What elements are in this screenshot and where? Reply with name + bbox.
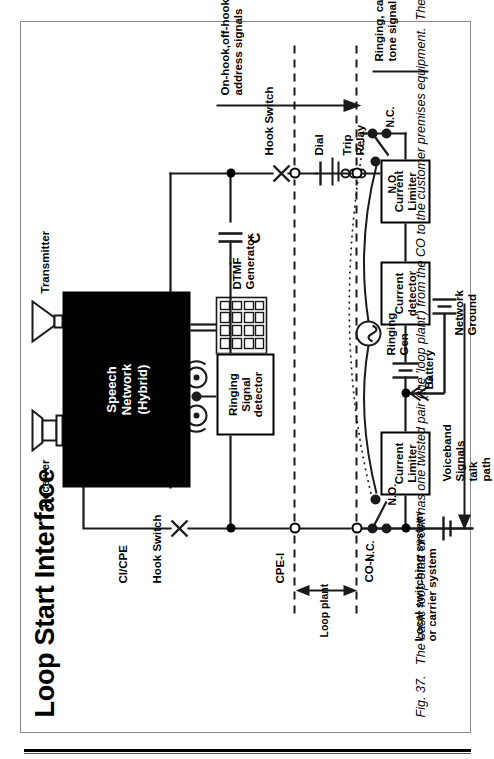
hook-switch-top-label: Hook Switch bbox=[150, 514, 163, 583]
hook-switch-bottom-label: Hook Switch bbox=[262, 86, 275, 155]
figure-page: Loop Start Interface bbox=[0, 0, 494, 759]
ringing-signal-detector-block: Ringing Signal detector bbox=[216, 353, 274, 435]
trip-relay-label: Trip Relay bbox=[340, 124, 366, 155]
bottom-rule bbox=[24, 749, 471, 752]
cpe-i-interface-node-right bbox=[289, 168, 300, 179]
loop-plant-label: Loop plant bbox=[318, 583, 330, 637]
co-i-interface-node bbox=[351, 523, 362, 534]
on-off-hook-label: On-hook,off-hook, address signals bbox=[218, 0, 244, 95]
cpe-i-label: CPE-I bbox=[273, 552, 286, 583]
co-i-interface-node-right bbox=[351, 168, 362, 179]
nc-right-label: N.C. bbox=[384, 106, 396, 127]
bottom-rule-shadow bbox=[24, 753, 471, 754]
nc-left-label: N.C. bbox=[364, 540, 376, 561]
rotated-figure-canvas: Loop Start Interface bbox=[20, 21, 471, 733]
speech-network-block: Speech Network (Hybrid) bbox=[62, 291, 190, 487]
voiceband-label: Voiceband Signals talk path bbox=[440, 424, 492, 481]
ringing-call-progress-label: Ringing, call progress tone signals,dc v… bbox=[372, 0, 398, 61]
transmitter-label: Transmitter bbox=[38, 230, 51, 293]
receiver-label: Receiver bbox=[38, 459, 51, 507]
no-left-label: N.O. bbox=[386, 483, 398, 505]
figure-caption: Fig. 37. The basic loop-start circuit ha… bbox=[412, 27, 429, 717]
cpe-i-interface-node bbox=[289, 523, 300, 534]
dial-label: Dial bbox=[312, 134, 325, 155]
junction-node-co-left bbox=[401, 524, 410, 533]
ci-cpe-label: CI/CPE bbox=[116, 545, 129, 583]
ringing-gen-label: Ringing Gen bbox=[384, 312, 410, 355]
junction-node-battery bbox=[401, 389, 410, 398]
junction-node-right-rail bbox=[226, 169, 235, 178]
network-ground-label: Network Ground bbox=[452, 290, 478, 335]
diagram-canvas: Loop Start Interface bbox=[20, 21, 471, 733]
dtmf-generator-label: DTMF Generator bbox=[230, 234, 256, 289]
ringing-signal-detector-label: Ringing Signal detector bbox=[226, 371, 265, 416]
no-right-label: N.O. bbox=[386, 171, 398, 193]
speech-network-label: Speech Network (Hybrid) bbox=[103, 363, 149, 414]
figure-frame: Loop Start Interface bbox=[20, 21, 471, 733]
junction-node-top-rail bbox=[226, 524, 235, 533]
